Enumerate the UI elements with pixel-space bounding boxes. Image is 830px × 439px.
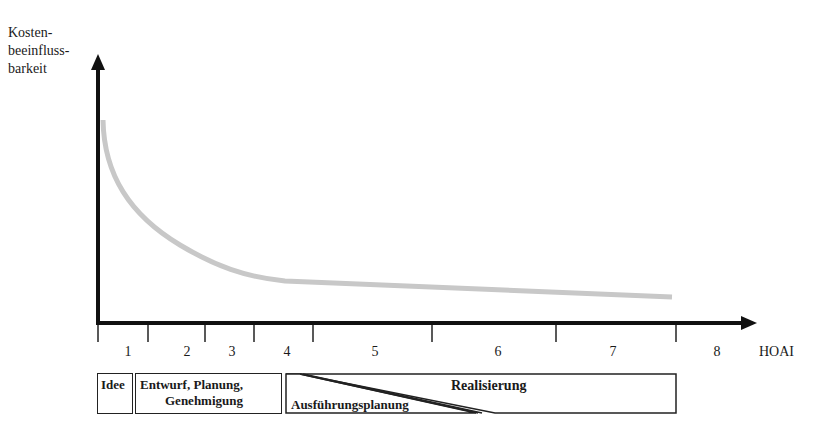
phase-label-6: 6 bbox=[495, 344, 502, 360]
entwurf-label-line-1: Entwurf, Planung, bbox=[140, 377, 281, 393]
phase-label-4: 4 bbox=[284, 344, 291, 360]
entwurf-box: Entwurf, Planung, Genehmigung bbox=[135, 373, 282, 414]
idee-label: Idee bbox=[101, 377, 125, 392]
cost-influence-curve bbox=[103, 120, 672, 297]
entwurf-label-line-2: Genehmigung bbox=[140, 393, 281, 409]
phase-label-7: 7 bbox=[610, 344, 617, 360]
idee-box: Idee bbox=[97, 373, 133, 414]
ausfuehrungsplanung-label: Ausführungsplanung bbox=[291, 397, 409, 413]
phase-label-5: 5 bbox=[372, 344, 379, 360]
x-axis-arrowhead-icon bbox=[741, 316, 757, 330]
realisierung-label: Realisierung bbox=[451, 378, 526, 394]
phase-label-8: 8 bbox=[714, 344, 721, 360]
y-axis-arrowhead-icon bbox=[91, 54, 105, 70]
x-axis-label: HOAI bbox=[759, 344, 794, 360]
phase-label-2: 2 bbox=[184, 344, 191, 360]
phase-label-3: 3 bbox=[229, 344, 236, 360]
x-axis-ticks bbox=[98, 325, 676, 342]
phase-label-1: 1 bbox=[125, 344, 132, 360]
